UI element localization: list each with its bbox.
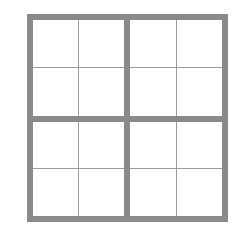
canvas bbox=[0, 0, 240, 237]
empty-4x4-grid bbox=[27, 14, 228, 222]
block-horizontal-divider bbox=[33, 116, 222, 122]
